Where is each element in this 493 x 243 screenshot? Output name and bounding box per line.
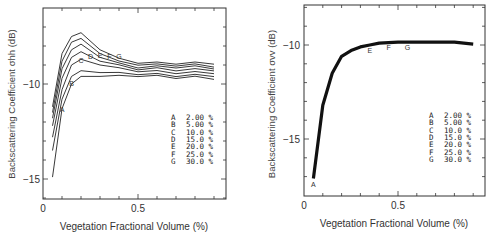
svg-text:A: A <box>60 106 65 113</box>
figure: ABCDEFG 0 0.5 −10 −15 Vegetation Fractio… <box>0 0 493 243</box>
svg-text:D: D <box>88 53 93 60</box>
y-tick-m10: −10 <box>23 79 40 90</box>
y-tick-m15: −15 <box>23 174 40 185</box>
legend-key: G <box>171 157 176 166</box>
svg-text:B: B <box>69 80 74 87</box>
svg-text:G: G <box>405 44 410 51</box>
svg-text:A: A <box>311 181 316 188</box>
curve-G <box>53 33 215 107</box>
chart-hh: ABCDEFG 0 0.5 −10 −15 Vegetation Fractio… <box>6 8 226 232</box>
legend-value: 30.0 % <box>444 155 472 164</box>
x-tick-05: 0.5 <box>391 200 405 211</box>
x-tick-0: 0 <box>301 200 307 211</box>
curve-E <box>53 44 215 118</box>
legend: A2.00 %B5.00 %C10.0 %D15.0 %E20.0 %F25.0… <box>429 111 472 164</box>
y-tick-m10: −10 <box>283 40 300 51</box>
y-axis-label: Backscattering Coefficient σhh (dB) <box>6 29 17 178</box>
svg-text:C: C <box>78 57 83 64</box>
axis-ticks <box>43 8 226 199</box>
curve-labels: AEFG <box>311 44 410 188</box>
svg-text:F: F <box>386 44 390 51</box>
curve-F <box>53 38 215 112</box>
legend-value: 30.0 % <box>186 157 214 166</box>
axis-ticks <box>304 5 485 196</box>
svg-text:F: F <box>107 53 111 60</box>
x-axis-label: Vegetation Fractional Volume (%) <box>320 218 468 229</box>
svg-text:E: E <box>367 47 372 54</box>
plot-frame <box>304 5 485 196</box>
x-tick-0: 0 <box>40 203 46 214</box>
x-tick-05: 0.5 <box>131 203 145 214</box>
svg-text:G: G <box>116 53 121 60</box>
svg-text:E: E <box>98 52 103 59</box>
y-tick-m15: −15 <box>283 134 300 145</box>
legend: A2.00 %B5.00 %C10.0 %D15.0 %E20.0 %F25.0… <box>171 113 214 166</box>
plot-frame <box>43 8 226 199</box>
y-axis-label: Backscattering Coefficient σvv (dB) <box>266 30 277 178</box>
chart-vv: AEFG 0 0.5 −10 −15 Vegetation Fractional… <box>266 5 485 229</box>
x-axis-label: Vegetation Fractional Volume (%) <box>60 221 208 232</box>
legend-key: G <box>429 155 434 164</box>
